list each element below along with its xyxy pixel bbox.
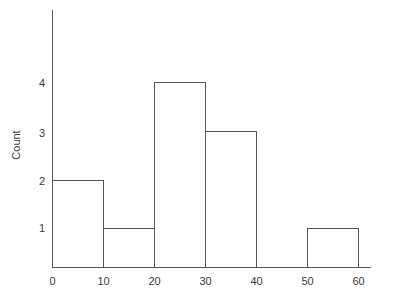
- x-tick-label-0: 0: [49, 275, 55, 287]
- x-tick-label-50: 50: [301, 275, 313, 287]
- plot-background: [0, 0, 394, 305]
- y-tick-label-3: 3: [39, 127, 45, 139]
- x-tick-label-10: 10: [97, 275, 109, 287]
- plot-canvas: 0 10 20 30 40 50 60 1 2 3 4 Count: [0, 0, 394, 305]
- x-tick-label-40: 40: [250, 275, 262, 287]
- x-tick-label-30: 30: [199, 275, 211, 287]
- x-tick-label-20: 20: [148, 275, 160, 287]
- y-tick-label-4: 4: [39, 77, 45, 89]
- y-axis-title: Count: [10, 130, 22, 159]
- y-tick-label-1: 1: [39, 222, 45, 234]
- histogram-figure: 0 10 20 30 40 50 60 1 2 3 4 Count: [0, 0, 394, 305]
- y-tick-label-2: 2: [39, 175, 45, 187]
- x-tick-label-60: 60: [352, 275, 364, 287]
